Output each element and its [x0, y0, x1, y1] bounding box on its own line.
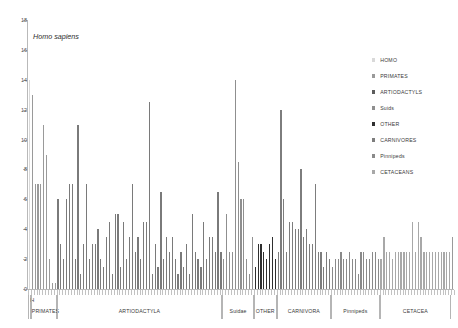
bar	[283, 199, 284, 289]
bar	[375, 252, 376, 289]
bar	[343, 259, 344, 289]
bar	[349, 252, 350, 289]
bar	[149, 102, 150, 289]
bar	[203, 222, 204, 289]
bar	[403, 252, 404, 289]
bar	[120, 267, 121, 289]
bar	[232, 252, 233, 289]
bar	[135, 252, 136, 289]
bar	[329, 259, 330, 289]
bar	[180, 252, 181, 289]
legend-item[interactable]: CETACEANS	[372, 164, 458, 180]
bar	[392, 259, 393, 289]
bar	[415, 252, 416, 289]
bar	[452, 237, 453, 289]
bar	[295, 229, 296, 289]
bar	[226, 214, 227, 289]
bar	[32, 95, 33, 289]
y-tick-label: 8	[10, 166, 27, 172]
bar	[52, 283, 53, 289]
bar	[292, 222, 293, 289]
y-tick-label: 2	[10, 256, 27, 262]
bar	[72, 184, 73, 289]
legend-label: ARTIODACTYLS	[380, 89, 422, 95]
bar	[323, 267, 324, 289]
bar	[86, 184, 87, 289]
bar	[100, 259, 101, 289]
bar	[360, 252, 361, 289]
chart-container: 024681012141618 HPRIMATESARTIODACTYLASui…	[0, 0, 458, 328]
bar	[358, 274, 359, 289]
bar	[126, 259, 127, 289]
bar	[426, 252, 427, 289]
bar	[386, 252, 387, 289]
bar	[260, 244, 261, 289]
bar	[315, 184, 316, 289]
legend-swatch-icon	[372, 154, 375, 157]
bar	[160, 192, 161, 289]
bar	[29, 80, 30, 289]
legend-label: Suids	[380, 105, 394, 111]
bar	[117, 214, 118, 289]
bar	[106, 237, 107, 289]
bar	[355, 259, 356, 289]
bar	[429, 252, 430, 289]
y-tick-label: 4	[10, 226, 27, 232]
bar	[306, 229, 307, 289]
x-axis-group-label: ARTIODACTYLA	[58, 308, 222, 314]
bar	[303, 237, 304, 289]
legend-item[interactable]: CARNIVORES	[372, 132, 458, 148]
bar	[157, 267, 158, 289]
legend-item[interactable]: OTHER	[372, 116, 458, 132]
bar	[63, 259, 64, 289]
bar	[438, 252, 439, 289]
bar	[269, 244, 270, 289]
bar	[66, 199, 67, 289]
bar	[75, 259, 76, 289]
bar	[398, 252, 399, 289]
bar	[420, 237, 421, 289]
x-axis-group-label: CARNIVORA	[278, 308, 330, 314]
bar	[312, 244, 313, 289]
bar	[243, 199, 244, 289]
bar	[252, 237, 253, 289]
legend-item[interactable]: ARTIODACTYLS	[372, 84, 458, 100]
bar	[366, 259, 367, 289]
x-axis-group: PRIMATES	[31, 295, 57, 319]
bar	[172, 237, 173, 289]
bar	[200, 267, 201, 289]
legend-item[interactable]: Suids	[372, 100, 458, 116]
bar	[389, 252, 390, 289]
x-axis-group-label: CETACEA	[381, 308, 450, 314]
bar	[177, 274, 178, 289]
bar	[215, 252, 216, 289]
x-axis-group: OTHER	[254, 295, 277, 319]
bar	[446, 252, 447, 289]
bar	[338, 259, 339, 289]
x-axis-group: CARNIVORA	[277, 295, 331, 319]
legend-swatch-icon	[372, 90, 375, 93]
bar	[43, 125, 44, 289]
bar	[258, 244, 259, 289]
bar	[166, 237, 167, 289]
y-tick-label: 14	[10, 77, 27, 83]
x-axis-group: Suidae	[222, 295, 253, 319]
legend-item[interactable]: HOMO	[372, 52, 458, 68]
legend-item[interactable]: PRIMATES	[372, 68, 458, 84]
bar	[238, 162, 239, 289]
bar	[280, 110, 281, 289]
legend-swatch-icon	[372, 74, 375, 77]
x-axis-group: ARTIODACTYLA	[57, 295, 223, 319]
bar	[443, 252, 444, 289]
bar	[435, 252, 436, 289]
bar	[46, 155, 47, 290]
bar	[249, 274, 250, 289]
chart-legend: HOMOPRIMATESARTIODACTYLSSuidsOTHERCARNIV…	[372, 52, 458, 180]
legend-item[interactable]: Pinnipeds	[372, 148, 458, 164]
bar	[263, 252, 264, 289]
bar	[335, 259, 336, 289]
bar	[223, 259, 224, 289]
bar	[332, 267, 333, 289]
bar	[309, 244, 310, 289]
bar	[206, 259, 207, 289]
